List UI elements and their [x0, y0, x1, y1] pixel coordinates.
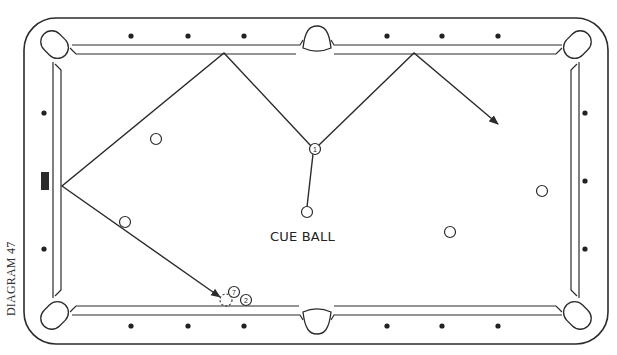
pool-table: 172 — [0, 0, 617, 355]
diamond-top — [241, 33, 246, 38]
diamond-top — [185, 33, 190, 38]
diamond-left — [41, 246, 46, 251]
svg-text:1: 1 — [313, 146, 317, 153]
diamond-right — [582, 110, 587, 115]
pool-diagram: 172 DIAGRAM 47 CUE BALL — [0, 0, 617, 355]
diagram-caption: DIAGRAM 47 — [4, 242, 19, 316]
pockets — [36, 26, 596, 334]
cue-ball — [302, 207, 313, 218]
svg-text:2: 2 — [244, 297, 248, 304]
plain-ball-c — [445, 227, 456, 238]
plain-ball-d — [537, 186, 548, 197]
diamond-right — [582, 178, 587, 183]
diamond-left — [41, 110, 46, 115]
pocket-top-left — [36, 26, 73, 63]
diamond-bottom — [495, 323, 500, 328]
object-ball-2: 2 — [241, 295, 252, 306]
cue-ball-label: CUE BALL — [270, 229, 335, 244]
plain-ball-a — [151, 134, 162, 145]
pocket-bottom-left — [36, 297, 73, 334]
plain-ball-b — [120, 217, 131, 228]
head-string-marker — [41, 172, 49, 190]
object-ball-path — [62, 53, 311, 297]
diamond-right — [582, 246, 587, 251]
diamond-bottom — [384, 323, 389, 328]
outer-rail — [24, 18, 608, 344]
rail-diamonds — [41, 33, 587, 328]
svg-text:7: 7 — [232, 289, 236, 296]
diamond-top — [128, 33, 133, 38]
pocket-top-side — [303, 26, 331, 51]
diamond-bottom — [439, 323, 444, 328]
diamond-top — [495, 33, 500, 38]
diamond-top — [439, 33, 444, 38]
diamond-bottom — [241, 323, 246, 328]
pocket-bottom-right — [559, 297, 596, 334]
diamond-bottom — [128, 323, 133, 328]
balls: 172 — [120, 134, 548, 306]
pocket-bottom-side — [303, 309, 331, 334]
cue-ball-path — [319, 53, 498, 145]
object-ball-1: 1 — [310, 144, 321, 155]
cue-to-ball1-path — [307, 154, 313, 207]
cushions — [53, 40, 579, 320]
shot-paths — [62, 53, 498, 297]
diamond-bottom — [185, 323, 190, 328]
object-ball-7: 7 — [229, 287, 240, 298]
pocket-top-right — [559, 26, 596, 63]
diamond-top — [384, 33, 389, 38]
